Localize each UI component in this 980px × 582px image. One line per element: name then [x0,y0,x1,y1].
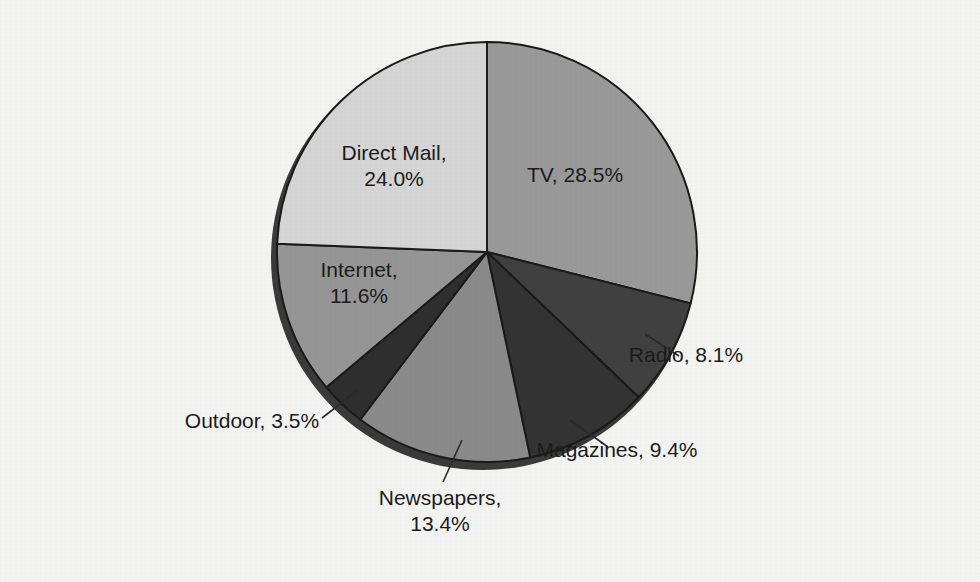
chart-page: TV, 28.5%Radio, 8.1%Magazines, 9.4%Newsp… [0,0,980,582]
pie-chart: TV, 28.5%Radio, 8.1%Magazines, 9.4%Newsp… [0,0,980,582]
pie-label-tv: TV, 28.5% [527,163,623,186]
pie-slices-layer [277,42,697,462]
pie-label-outdoor: Outdoor, 3.5% [185,409,319,432]
pie-label-radio: Radio, 8.1% [629,343,743,366]
pie-label-magazines: Magazines, 9.4% [536,438,697,461]
pie-label-newspapers: Newspapers,13.4% [379,486,502,535]
